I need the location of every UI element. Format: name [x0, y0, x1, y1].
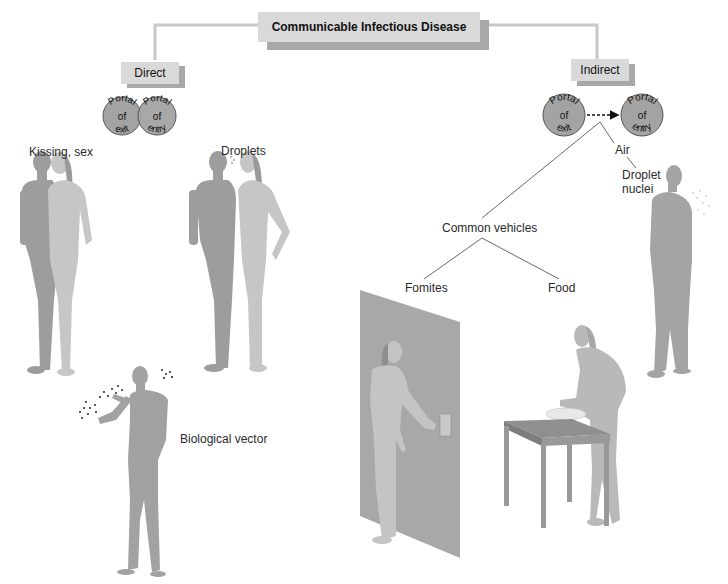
label-droplets: Droplets: [221, 144, 266, 158]
label-droplet-nuclei: Droplet nuclei: [622, 168, 674, 196]
label-kissing-sex: Kissing, sex: [29, 145, 93, 159]
table-leg: [541, 444, 546, 528]
connector-layer: Portal of exit Portal of entry Portal of…: [0, 0, 728, 584]
figure-fomites-scene: [360, 290, 460, 558]
connector-to-fomites: [424, 238, 482, 279]
table-leg: [604, 442, 609, 526]
label-fomites: Fomites: [405, 281, 448, 295]
figure-biological-vector: [79, 366, 173, 577]
figure-kissing-couple: [20, 151, 92, 376]
svg-text:of: of: [153, 111, 162, 122]
portal-exit-indirect: Portal of exit: [543, 91, 585, 136]
direct-box: Direct: [121, 62, 179, 84]
connector-to-food: [482, 238, 559, 279]
indirect-label: Indirect: [580, 63, 619, 77]
figure-woman: [238, 151, 290, 372]
portal-entry-indirect: Portal of entry: [621, 91, 663, 136]
svg-text:of: of: [638, 110, 647, 121]
figure-woman: [48, 152, 92, 376]
svg-text:of: of: [560, 110, 569, 121]
indirect-box: Indirect: [571, 59, 629, 81]
connector-to-common-vehicles: [482, 122, 600, 218]
title-box: Communicable Infectious Disease: [258, 12, 480, 42]
food-bowl: [546, 408, 586, 420]
label-biological-vector: Biological vector: [180, 432, 267, 446]
diagram: Portal of exit Portal of entry Portal of…: [0, 0, 728, 584]
label-air: Air: [615, 143, 630, 157]
figure-food-scene: [504, 325, 626, 528]
table-leg: [504, 426, 509, 506]
figure-droplets-couple: [189, 151, 290, 372]
droplet-nuclei-cloud: [692, 190, 710, 215]
connector-direct: [155, 25, 262, 60]
direct-label: Direct: [134, 66, 165, 80]
portal-exit-direct: Portal of exit: [103, 92, 141, 135]
connector-air-to-nuclei: [627, 157, 636, 168]
svg-text:of: of: [118, 111, 127, 122]
door-switch-plate: [440, 414, 451, 436]
figure-man: [189, 151, 236, 372]
label-food: Food: [548, 281, 575, 295]
portal-entry-direct: Portal of entry: [138, 92, 176, 135]
connector-to-air: [600, 122, 614, 143]
label-common-vehicles: Common vehicles: [442, 221, 537, 235]
figure-man: [98, 366, 168, 577]
figure-air-man: [647, 165, 710, 378]
table-leg: [567, 440, 572, 502]
diagram-title: Communicable Infectious Disease: [272, 20, 467, 34]
